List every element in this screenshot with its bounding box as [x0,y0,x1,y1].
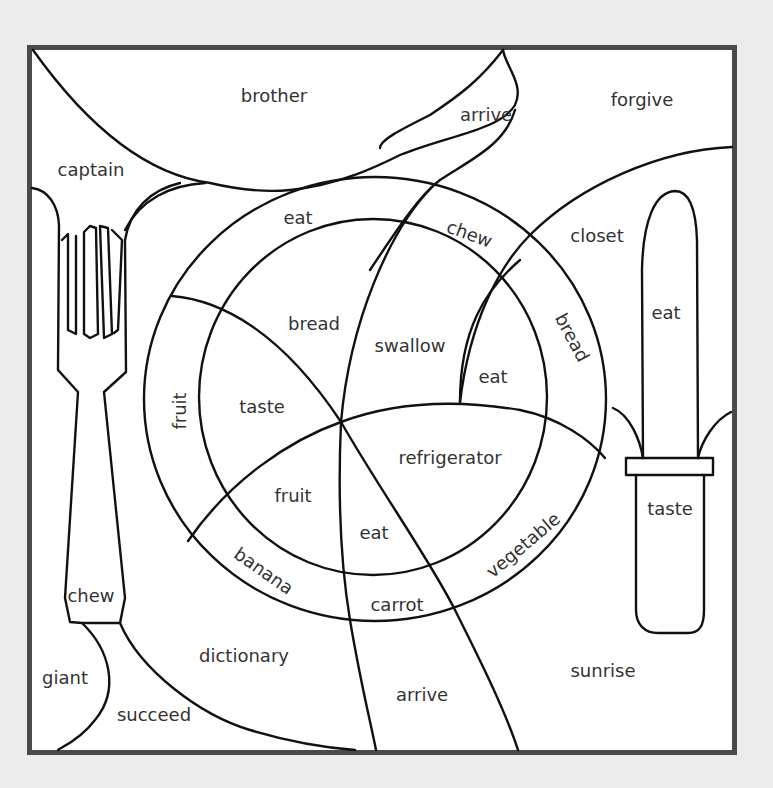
region-fruit-rim[interactable]: fruit [169,392,190,429]
region-closet[interactable]: closet [570,225,623,246]
region-succeed[interactable]: succeed [117,704,191,725]
region-eat-rim-top[interactable]: eat [283,207,312,228]
worksheet: brother arrive forgive captain eat chew … [0,0,773,788]
region-dictionary[interactable]: dictionary [199,645,289,666]
region-eat-inner-bottom[interactable]: eat [359,522,388,543]
region-taste-knife-handle[interactable]: taste [647,498,693,519]
region-eat-inner-right[interactable]: eat [478,366,507,387]
region-refrigerator[interactable]: refrigerator [398,447,502,468]
region-eat-knife-blade[interactable]: eat [651,302,680,323]
region-brother[interactable]: brother [241,85,308,106]
region-chew-fork-handle[interactable]: chew [67,585,114,606]
region-forgive[interactable]: forgive [611,89,674,110]
region-bread-inner[interactable]: bread [288,313,340,334]
region-swallow[interactable]: swallow [375,335,446,356]
region-taste-inner[interactable]: taste [239,396,285,417]
region-captain[interactable]: captain [58,159,125,180]
region-fruit-inner[interactable]: fruit [274,485,311,506]
region-sunrise[interactable]: sunrise [570,660,635,681]
region-arrive-bottom[interactable]: arrive [396,684,448,705]
region-arrive-top[interactable]: arrive [460,104,512,125]
region-carrot-rim[interactable]: carrot [370,594,423,615]
region-giant[interactable]: giant [42,667,88,688]
